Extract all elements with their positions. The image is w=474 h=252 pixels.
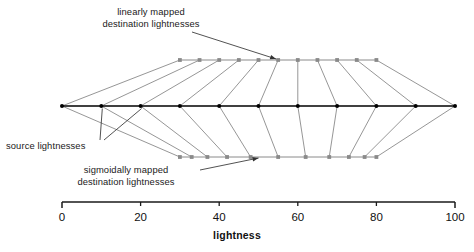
figure-canvas: linearly mapped destination lightnesses … — [0, 0, 474, 252]
axis-tick-label-80: 80 — [356, 211, 396, 223]
annotation-sigmoidal-mapped: sigmoidally mapped destination lightness… — [36, 164, 216, 187]
annotation-linear-mapped: linearly mapped destination lightnesses — [52, 6, 250, 29]
axis-tick-label-40: 40 — [199, 211, 239, 223]
connector-group-linear — [62, 60, 455, 106]
axis-ruler — [62, 202, 455, 208]
axis-tick-label-0: 0 — [42, 211, 82, 223]
axis-tick-label-20: 20 — [121, 211, 161, 223]
axis-title: lightness — [187, 229, 287, 241]
annotation-sigmoidal-line2: destination lightnesses — [36, 176, 216, 188]
annotation-linear-line2: destination lightnesses — [52, 18, 250, 30]
annotation-source-lightnesses: source lightnesses — [6, 140, 126, 152]
sigmoidal-mapped-markers — [178, 155, 378, 159]
annotation-leader-lines — [100, 32, 276, 170]
annotation-source-line1: source lightnesses — [6, 140, 126, 152]
annotation-linear-line1: linearly mapped — [52, 6, 250, 18]
axis-tick-label-100: 100 — [435, 211, 474, 223]
annotation-sigmoidal-line1: sigmoidally mapped — [36, 164, 216, 176]
axis-tick-label-60: 60 — [278, 211, 318, 223]
